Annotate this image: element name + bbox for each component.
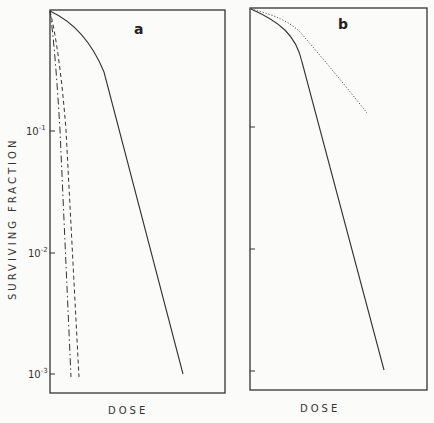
panel-a: a 10-1 10-2 10-3 DOSE SURVIVING FRACTION <box>7 10 225 416</box>
y-axis-title: SURVIVING FRACTION <box>7 138 18 300</box>
panel-b: b DOSE <box>250 8 427 414</box>
curve-solid-a <box>50 11 183 374</box>
figure: a 10-1 10-2 10-3 DOSE SURVIVING FRACTION… <box>0 0 434 423</box>
tick-label-1e-3: 10-3 <box>28 367 48 380</box>
curve-solid-b <box>251 9 384 370</box>
curve-dashdot-a <box>50 11 71 377</box>
tick-label-1e-1: 10-1 <box>26 124 46 137</box>
curve-dashed-a <box>50 11 79 377</box>
tick-label-1e-2: 10-2 <box>28 246 48 259</box>
x-axis-title-a: DOSE <box>108 405 148 416</box>
curve-dotted-b <box>251 9 367 113</box>
panel-b-letter: b <box>338 16 348 32</box>
panel-a-letter: a <box>134 21 143 37</box>
x-axis-title-b: DOSE <box>300 403 340 414</box>
